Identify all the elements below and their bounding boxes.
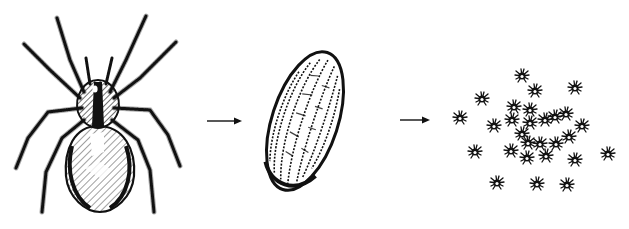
egg-sac-icon bbox=[251, 42, 358, 199]
arrow-right-icon bbox=[207, 118, 242, 125]
spider-icon bbox=[16, 16, 180, 212]
spiderlings-icon bbox=[453, 69, 615, 191]
arrow-right-icon bbox=[400, 117, 430, 124]
lifecycle-diagram: Spider life cycle Adult spider Egg sac S… bbox=[0, 0, 629, 229]
